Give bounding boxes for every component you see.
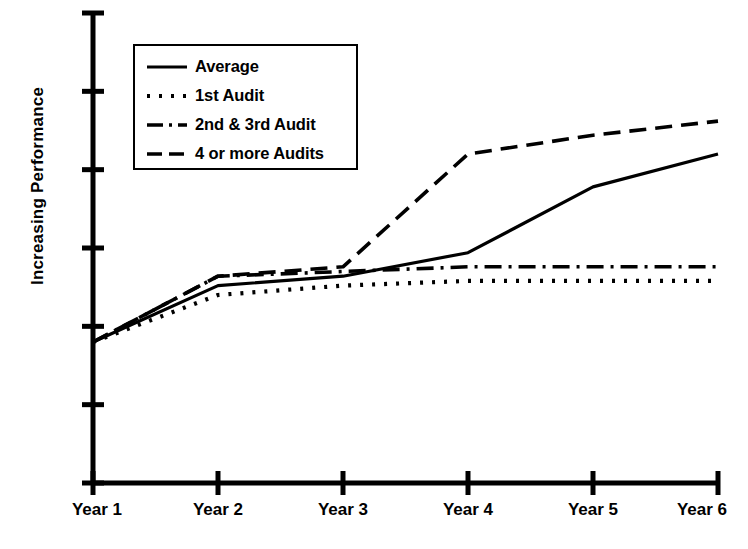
x-axis-tick-label: Year 5: [568, 500, 618, 520]
x-axis-tick-label: Year 2: [193, 500, 243, 520]
x-axis-tick-label: Year 4: [443, 500, 493, 520]
legend-item-1st-audit: 1st Audit: [135, 81, 356, 110]
series-line: [93, 154, 718, 342]
legend-item-average: Average: [135, 52, 356, 81]
legend-swatch-dash-dot-icon: [145, 118, 189, 132]
x-axis-tick-label: Year 3: [318, 500, 368, 520]
legend-item-2nd-3rd-audit: 2nd & 3rd Audit: [135, 110, 356, 139]
legend-label-2nd-3rd-audit: 2nd & 3rd Audit: [195, 115, 316, 134]
legend-swatch-dashed-icon: [145, 147, 189, 161]
legend-label-average: Average: [195, 57, 259, 76]
series-line: [93, 281, 718, 342]
legend-item-4-or-more-audits: 4 or more Audits: [135, 139, 356, 168]
x-axis-tick-label: Year 1: [72, 500, 122, 520]
x-axis-labels: Year 1Year 2Year 3Year 4Year 5Year 6: [0, 500, 748, 540]
series-line: [93, 267, 718, 342]
legend: Average 1st Audit 2nd & 3rd Audit: [133, 44, 358, 170]
chart-root: Increasing Performance Year 1Year 2Year …: [0, 0, 748, 549]
legend-swatch-solid-icon: [145, 60, 189, 74]
legend-label-1st-audit: 1st Audit: [195, 86, 264, 105]
plot-area: [0, 0, 748, 549]
x-axis-tick-label: Year 6: [677, 500, 727, 520]
legend-label-4-or-more-audits: 4 or more Audits: [195, 144, 324, 163]
legend-swatch-dotted-icon: [145, 89, 189, 103]
